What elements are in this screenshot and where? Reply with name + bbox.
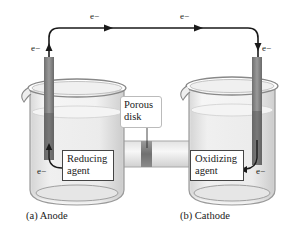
electron-label: e− [256, 167, 265, 176]
porous-disk-label: Porous disk [120, 96, 162, 128]
anode-caption: (a) Anode [26, 210, 68, 222]
oxidizing-agent-line2: agent [195, 165, 239, 177]
reducing-agent-label: Reducing agent [62, 150, 114, 181]
electron-label: e− [31, 44, 40, 53]
oxidizing-agent-label: Oxidizing agent [190, 150, 244, 181]
reducing-agent-line2: agent [67, 165, 109, 177]
wire-arrow-right-icon [104, 25, 113, 32]
cathode-beaker [181, 77, 278, 205]
wire-arrow-right-icon [194, 25, 203, 32]
porous-disk-label-line1: Porous [124, 99, 158, 111]
wire-arrow-up-icon [46, 43, 53, 51]
reducing-agent-line1: Reducing [67, 153, 109, 165]
porous-disk [141, 141, 152, 167]
porous-disk-label-line2: disk [124, 111, 158, 123]
connecting-tube [112, 141, 198, 167]
electron-label: e− [37, 167, 46, 176]
external-wire [49, 28, 258, 57]
anode-beaker [22, 79, 126, 205]
cathode-caption: (b) Cathode [180, 210, 230, 222]
galvanic-cell-diagram: e− e− e− e− e− e− Porous disk Reducing a… [0, 0, 288, 231]
electron-label: e− [180, 12, 189, 21]
wire-arrow-down-icon [255, 43, 262, 51]
electron-label: e− [90, 12, 99, 21]
oxidizing-agent-line1: Oxidizing [195, 153, 239, 165]
electron-label: e− [262, 44, 271, 53]
